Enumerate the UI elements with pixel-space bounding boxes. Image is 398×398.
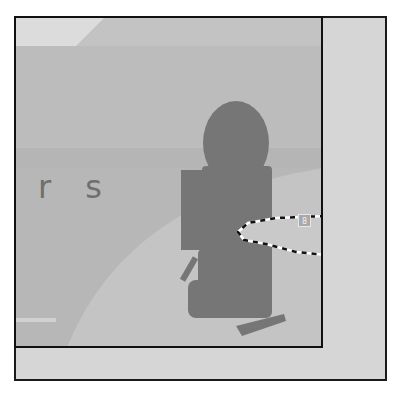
image-canvas[interactable]: r s 8 (14, 16, 323, 348)
partial-text: r s (38, 168, 114, 206)
selection-badge[interactable]: 8 (298, 214, 311, 227)
